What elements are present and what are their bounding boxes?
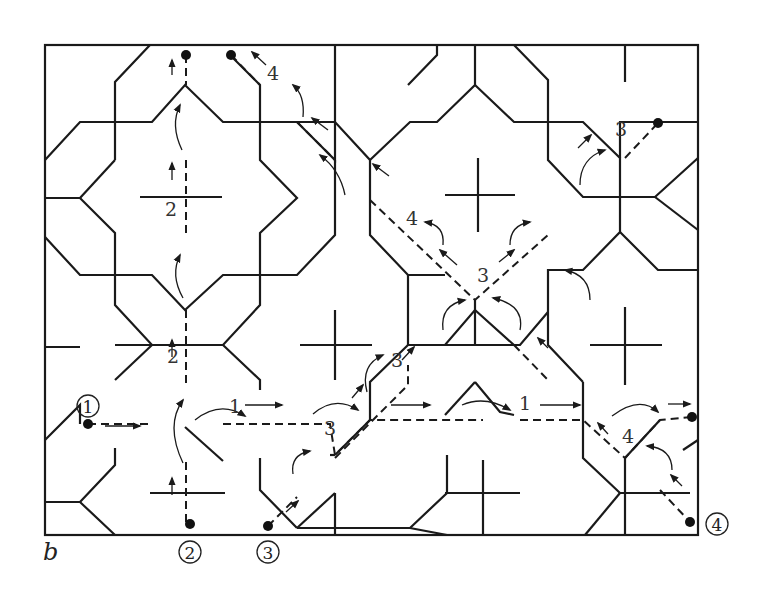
start-dot [83, 419, 93, 429]
curved-arrow-icon [612, 404, 658, 416]
arrow-icon [499, 250, 514, 262]
curved-arrows [174, 85, 672, 474]
tile-edge [408, 45, 437, 85]
dislocation-path [520, 417, 692, 458]
curved-arrow-icon [313, 403, 358, 414]
start-marker-label: 2 [185, 543, 196, 563]
end-dot [653, 118, 663, 128]
tile-edge [548, 197, 620, 382]
end-dot [226, 50, 236, 60]
arrow-icon [373, 164, 389, 176]
arrow-icon [598, 423, 608, 434]
curved-arrow-icon [320, 155, 345, 195]
start-dot [185, 519, 195, 529]
tile-edge [370, 45, 475, 160]
start-marker-label: 3 [263, 543, 274, 563]
path-label: 3 [391, 349, 403, 371]
tile-edge [185, 427, 223, 461]
arrow-icon [352, 385, 363, 398]
arrow-icon [578, 135, 591, 148]
dislocation-path [514, 345, 548, 380]
tile-edge [223, 345, 260, 390]
path-label: 3 [477, 264, 489, 286]
curved-arrow-icon [510, 222, 530, 245]
curved-arrow-icon [293, 85, 303, 117]
arrow-icon [538, 338, 548, 348]
tile-edge [620, 232, 698, 270]
tile-edge [297, 493, 335, 528]
path-label: 4 [406, 207, 418, 229]
dislocation-path [660, 490, 690, 522]
tile-edge [80, 448, 115, 502]
curved-arrow-icon [176, 255, 183, 298]
path-label: 2 [165, 198, 177, 220]
panel-label: b [43, 538, 58, 566]
end-dot [687, 412, 697, 422]
tile-boundaries [45, 45, 698, 535]
curved-arrow-icon [175, 105, 182, 150]
tile-edge [45, 45, 335, 160]
tile-edge [475, 382, 514, 415]
end-dot [181, 50, 191, 60]
curved-arrow-icon [462, 401, 510, 410]
tile-edge [45, 160, 335, 310]
arrow-icon [440, 250, 457, 265]
tile-edge [260, 458, 297, 528]
path-label: 1 [519, 392, 531, 414]
path-label: 2 [167, 345, 179, 367]
path-label: 3 [615, 118, 627, 140]
start-dot [263, 521, 273, 531]
tile-edge [475, 312, 548, 345]
start-marker-3: 3 [257, 521, 279, 563]
start-marker-label: 1 [83, 397, 94, 417]
start-marker-label: 4 [712, 515, 723, 535]
diagram-frame [45, 45, 698, 535]
tile-edge [583, 382, 690, 493]
curved-arrow-icon [647, 446, 672, 470]
dislocation-path [370, 200, 548, 300]
curved-arrow-icon [425, 222, 443, 245]
tile-edge [620, 158, 698, 197]
tile-edge [585, 493, 620, 535]
endpoint-dots [181, 50, 697, 422]
tile-edge [655, 197, 698, 230]
arrow-icon [671, 475, 682, 486]
dislocation-path [625, 123, 658, 158]
path-labels: 22443333114 [165, 62, 634, 447]
tile-edge [45, 405, 80, 440]
curved-arrow-icon [580, 150, 605, 185]
direction-arrows [105, 52, 690, 512]
tile-edge [115, 345, 152, 380]
dislocation-path [223, 420, 483, 455]
tile-edge [410, 455, 447, 528]
tile-edge [514, 45, 548, 122]
path-label: 4 [267, 62, 279, 84]
dislocation-paths [88, 55, 692, 526]
tile-edge [683, 440, 698, 450]
curved-arrow-icon [365, 355, 383, 392]
tile-edge [115, 45, 150, 160]
start-dot [685, 517, 695, 527]
path-label: 3 [324, 417, 336, 439]
tile-edge [445, 382, 475, 415]
curved-arrow-icon [293, 451, 310, 474]
path-label: 1 [229, 395, 241, 417]
start-marker-2: 2 [179, 519, 201, 563]
tile-edge [80, 160, 115, 198]
path-label: 4 [622, 425, 634, 447]
curved-arrow-icon [493, 298, 521, 330]
tiling-diagram: 22443333114 1234 b [0, 0, 766, 592]
arrow-icon [312, 118, 328, 130]
tile-edge [45, 502, 115, 535]
curved-arrow-icon [174, 400, 183, 463]
curved-arrow-icon [565, 270, 590, 300]
start-marker-4: 4 [685, 513, 728, 535]
arrow-icon [252, 52, 266, 65]
